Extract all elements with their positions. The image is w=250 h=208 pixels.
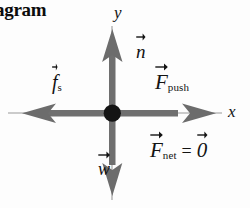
vector-arrow-weight bbox=[102, 113, 122, 196]
symbol-subscript: net bbox=[163, 149, 177, 161]
vector-label-static-friction: f s bbox=[52, 72, 62, 93]
vector-label-push: F push bbox=[155, 72, 189, 93]
symbol-glyph: F bbox=[150, 138, 163, 162]
symbol-subscript: s bbox=[58, 81, 62, 93]
vector-symbol-w: w bbox=[98, 160, 110, 178]
equation-rhs: 0 bbox=[197, 140, 208, 161]
equation-lhs: F net bbox=[150, 140, 177, 161]
vector-label-normal: n bbox=[136, 42, 146, 61]
symbol-glyph: F bbox=[155, 70, 168, 94]
axis-label-x: x bbox=[228, 103, 236, 120]
symbol-glyph: 0 bbox=[197, 138, 208, 162]
symbol-glyph: f bbox=[52, 71, 58, 93]
vector-symbol-F: F bbox=[155, 72, 168, 93]
vector-symbol-f: f bbox=[52, 72, 58, 92]
symbol-glyph: w bbox=[98, 159, 110, 179]
origin-particle-dot bbox=[104, 105, 121, 122]
equals-operator: = bbox=[182, 142, 192, 160]
vector-label-weight: w bbox=[98, 160, 110, 178]
vector-arrow-normal bbox=[102, 29, 122, 114]
free-body-diagram-figure: iagram y x f s n bbox=[0, 0, 250, 208]
vector-diagram-canvas bbox=[0, 0, 250, 208]
axis-label-y: y bbox=[114, 4, 122, 21]
figure-heading: iagram bbox=[0, 0, 46, 19]
vector-symbol-zero: 0 bbox=[197, 140, 208, 161]
vector-arrow-push bbox=[112, 103, 216, 123]
vector-symbol-n: n bbox=[136, 42, 146, 61]
vector-arrow-static-friction bbox=[22, 103, 113, 123]
equation-net-force: F net = 0 bbox=[150, 140, 207, 161]
vector-symbol-F-net: F bbox=[150, 140, 163, 161]
symbol-glyph: n bbox=[136, 41, 146, 62]
symbol-subscript: push bbox=[168, 81, 189, 93]
